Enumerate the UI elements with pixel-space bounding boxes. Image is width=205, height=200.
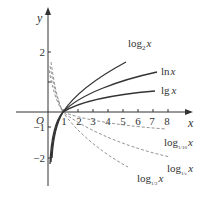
svg-text:8: 8 xyxy=(164,115,170,127)
svg-text:−2: −2 xyxy=(33,152,45,164)
x-axis-arrow-icon xyxy=(185,109,193,115)
y-tick-labels: 2 −1 −2 xyxy=(33,46,45,164)
svg-text:3: 3 xyxy=(90,115,96,127)
y-axis-label: y xyxy=(36,11,43,25)
svg-text:6: 6 xyxy=(135,115,141,127)
label-log-1-e: log1/ex xyxy=(167,162,193,176)
y-axis-arrow-icon xyxy=(45,7,51,15)
curve-ln xyxy=(51,72,157,162)
label-log2: log2x xyxy=(128,37,152,52)
svg-text:7: 7 xyxy=(149,115,155,127)
label-log-1-2: log1/2x xyxy=(137,172,163,186)
svg-text:−1: −1 xyxy=(33,121,45,133)
svg-text:4: 4 xyxy=(105,115,111,127)
x-axis-label: x xyxy=(187,116,194,130)
label-log-1-10: log1/10x xyxy=(164,136,193,150)
curve-lg xyxy=(50,91,155,164)
x-tick-labels: 1 2 3 4 5 6 7 8 xyxy=(61,115,170,127)
svg-text:2: 2 xyxy=(40,46,46,58)
log-functions-chart: y x O 1 2 3 4 5 6 7 8 2 −1 −2 log2x lnx xyxy=(0,0,205,200)
label-ln: lnx xyxy=(161,65,176,77)
label-lg: lgx xyxy=(161,84,177,96)
